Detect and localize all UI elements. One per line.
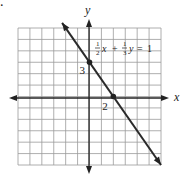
x-axis-label: x: [173, 90, 180, 104]
eq-coef-x-num: 1: [96, 40, 100, 48]
intercept-point: [111, 94, 117, 100]
axes: x y: [9, 3, 180, 174]
eq-equals: =: [137, 43, 143, 54]
y-axis-arrow-down: [86, 166, 92, 174]
eq-coef-y-num: 1: [123, 40, 127, 48]
eq-plus: +: [112, 43, 118, 54]
x-axis-arrow-right: [161, 95, 169, 101]
y-axis-label: y: [84, 3, 91, 17]
eq-coef-x-den: 2: [96, 49, 100, 57]
intercept-label: 3: [80, 64, 86, 76]
eq-var-x: x: [101, 43, 107, 54]
chart: x y 32 1 2 x + 1 3 y = 1: [0, 0, 187, 179]
y-axis-arrow-up: [86, 19, 92, 27]
equation-label: 1 2 x + 1 3 y = 1: [95, 40, 152, 57]
eq-var-y: y: [128, 43, 134, 54]
x-axis-arrow-left: [9, 95, 17, 101]
intercept-label: 2: [102, 100, 108, 112]
intercept-point: [87, 59, 93, 65]
eq-rhs: 1: [147, 43, 152, 54]
eq-coef-y-den: 3: [123, 49, 127, 57]
